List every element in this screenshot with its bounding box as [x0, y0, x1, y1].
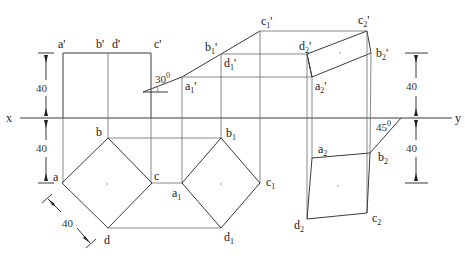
label-d: d	[104, 233, 110, 247]
label-b2: b2	[378, 150, 388, 166]
front-view-2	[143, 31, 367, 183]
label-c: c	[154, 169, 159, 183]
label-c1-prime: c1'	[261, 14, 273, 30]
label-b-prime: b'	[96, 37, 104, 51]
label-a2: a2	[318, 142, 327, 158]
label-b1-prime: b1'	[205, 40, 217, 56]
label-d1: d1	[224, 230, 234, 246]
label-b: b	[96, 125, 102, 139]
label-d1-prime: d1'	[224, 56, 236, 72]
label-c-prime: c'	[154, 37, 162, 51]
dim-diagonal: 40	[62, 217, 74, 229]
label-d2-prime: d2'	[299, 39, 311, 55]
label-d2: d2	[294, 218, 304, 234]
center-dot	[220, 183, 221, 184]
dim-right-lower: 40	[406, 142, 418, 154]
label-b2-prime: b2'	[376, 46, 388, 62]
label-a2-prime: a2'	[315, 79, 327, 95]
label-c2: c2	[372, 211, 381, 227]
label-c2-prime: c2'	[358, 13, 370, 29]
label-a: a	[53, 170, 59, 184]
center-dot	[106, 183, 107, 184]
axis-label-y: y	[455, 111, 461, 125]
center-dot	[337, 185, 338, 186]
angle-label-45: 450	[376, 119, 391, 133]
label-d-prime: d'	[112, 37, 120, 51]
dim-right-upper: 40	[406, 80, 418, 92]
projection-lines-1	[63, 118, 151, 183]
label-a1: a1	[172, 186, 181, 202]
label-a-prime: a'	[58, 37, 66, 51]
axis-label-x: x	[6, 111, 12, 125]
top-view-2-square	[182, 138, 260, 228]
top-view-1-square	[62, 138, 152, 228]
dim-left-lower: 40	[36, 142, 48, 154]
label-a1-prime: a1'	[185, 79, 197, 95]
label-c1: c1	[266, 175, 275, 191]
front-view-3	[307, 31, 371, 219]
projection-drawing: x y	[0, 0, 465, 261]
front-view-1	[63, 53, 151, 118]
dim-left-upper: 40	[36, 82, 48, 94]
label-b1: b1	[226, 126, 236, 142]
